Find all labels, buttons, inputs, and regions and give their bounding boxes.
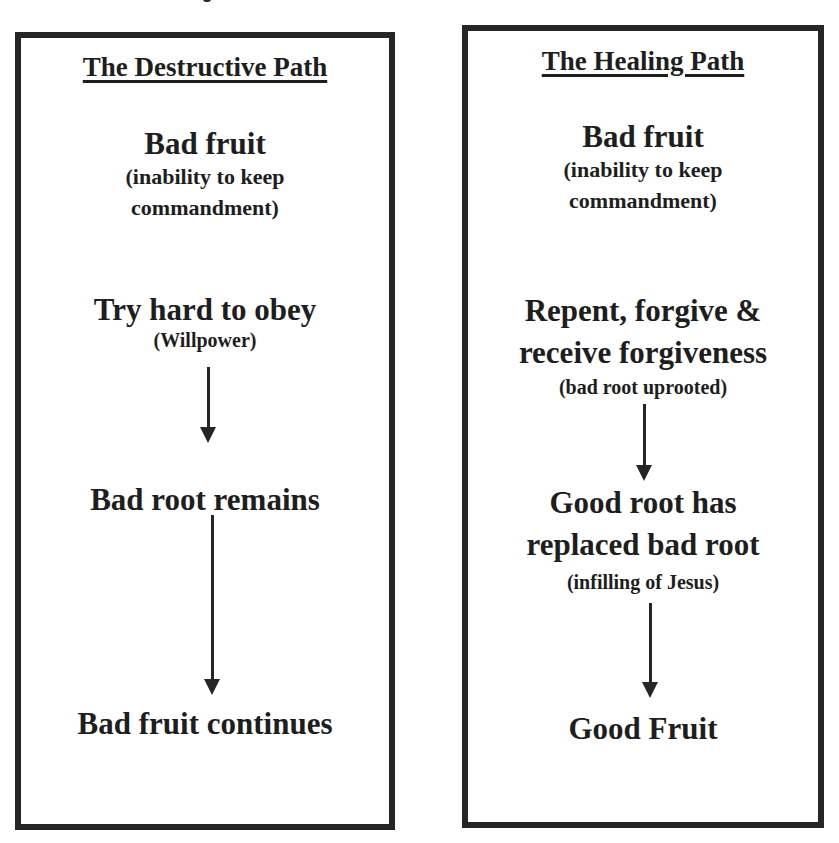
healing-path-heading: The Healing Path bbox=[468, 48, 818, 75]
step-try-hard-title: Try hard to obey bbox=[21, 294, 389, 325]
step-bad-fruit-subtitle-2: commandment) bbox=[21, 197, 389, 219]
destructive-path-box: The Destructive Path Bad fruit (inabilit… bbox=[15, 32, 395, 830]
step-bad-fruit-subtitle-1: (inability to keep bbox=[468, 159, 818, 181]
step-bad-fruit-continues-title: Bad fruit continues bbox=[21, 708, 389, 739]
step-bad-root-remains-title: Bad root remains bbox=[21, 484, 389, 515]
step-bad-fruit-subtitle-1: (inability to keep bbox=[21, 166, 389, 188]
step-try-hard-subtitle: (Willpower) bbox=[21, 330, 389, 350]
step-repent-title-2: receive forgiveness bbox=[468, 337, 818, 368]
step-good-root-title-2: replaced bad root bbox=[468, 529, 818, 560]
step-good-root-title-1: Good root has bbox=[468, 487, 818, 518]
destructive-path-heading: The Destructive Path bbox=[21, 54, 389, 81]
healing-path-box: The Healing Path Bad fruit (inability to… bbox=[462, 25, 824, 828]
cropped-title-fragment bbox=[203, 0, 211, 2]
step-repent-title-1: Repent, forgive & bbox=[468, 295, 818, 326]
step-repent-subtitle: (bad root uprooted) bbox=[468, 377, 818, 397]
step-bad-fruit-title: Bad fruit bbox=[468, 121, 818, 152]
step-good-fruit-title: Good Fruit bbox=[468, 713, 818, 744]
step-bad-fruit-subtitle-2: commandment) bbox=[468, 190, 818, 212]
step-bad-fruit-title: Bad fruit bbox=[21, 128, 389, 159]
step-good-root-subtitle: (infilling of Jesus) bbox=[468, 572, 818, 592]
